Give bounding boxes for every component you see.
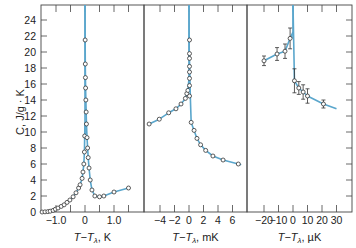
x-axis-label: T−Tλ, K: [74, 231, 112, 245]
data-point: [93, 194, 97, 198]
data-point: [88, 178, 92, 182]
x-tick-label: 30: [331, 214, 343, 226]
data-point: [84, 86, 88, 90]
data-point: [188, 56, 192, 60]
y-tick-label: 2: [30, 190, 36, 202]
data-point: [78, 183, 82, 187]
panel-3: −20−100102030T−Tλ, µK: [247, 5, 352, 245]
data-point: [80, 176, 84, 180]
data-point: [102, 194, 106, 198]
data-point: [74, 191, 78, 195]
data-point: [179, 102, 183, 106]
data-point: [262, 59, 266, 63]
y-tick-label: 6: [30, 158, 36, 170]
x-tick-label: −4: [154, 214, 166, 226]
data-point: [98, 195, 102, 199]
data-point: [90, 188, 94, 192]
data-point: [87, 166, 91, 170]
x-tick-label: 2: [201, 214, 207, 226]
fit-curve: [189, 5, 241, 165]
data-point: [84, 122, 88, 126]
y-tick-label: 10: [24, 126, 36, 138]
x-tick-label: −1.0: [46, 214, 67, 226]
data-point: [301, 90, 305, 94]
data-point: [83, 76, 87, 80]
data-point: [68, 198, 72, 202]
x-tick-label: 1.0: [107, 214, 122, 226]
fit-curve: [264, 32, 293, 61]
data-point: [204, 148, 208, 152]
fit-curve: [149, 78, 189, 124]
x-tick-label: 0: [82, 214, 88, 226]
y-tick-label: 14: [24, 94, 36, 106]
y-tick-label: 24: [24, 14, 36, 26]
y-tick-label: 16: [24, 78, 36, 90]
specific-heat-lambda-chart: C, J/g · K024681012141618202224−1.001.0T…: [0, 0, 356, 248]
data-point: [83, 38, 87, 42]
y-tick-label: 8: [30, 142, 36, 154]
data-point: [188, 94, 192, 98]
data-point: [82, 162, 86, 166]
data-point: [221, 158, 225, 162]
x-tick-label: 0: [290, 214, 296, 226]
data-point: [188, 76, 192, 80]
panel-frame: [144, 5, 247, 212]
data-point: [188, 52, 192, 56]
x-tick-label: −2: [169, 214, 181, 226]
data-point: [321, 102, 325, 106]
data-point: [84, 110, 88, 114]
x-axis-label: T−Tλ, µK: [278, 231, 322, 245]
data-point: [127, 186, 131, 190]
fit-curve: [85, 5, 129, 197]
x-tick-label: 6: [230, 214, 236, 226]
data-point: [186, 88, 190, 92]
y-tick-label: 12: [24, 110, 36, 122]
panel-1: −1.001.0T−Tλ, K: [40, 5, 144, 245]
data-point: [82, 150, 86, 154]
data-point: [188, 84, 192, 88]
data-point: [188, 64, 192, 68]
x-tick-label: 0: [186, 214, 192, 226]
data-point: [236, 162, 240, 166]
data-point: [275, 52, 279, 56]
y-tick-label: 20: [24, 46, 36, 58]
fit-curve: [42, 124, 85, 212]
data-point: [292, 79, 296, 83]
panel-frame: [41, 5, 144, 212]
data-point: [71, 195, 75, 199]
data-point: [86, 156, 90, 160]
data-point: [188, 38, 192, 42]
data-point: [167, 111, 171, 115]
data-point: [283, 49, 287, 53]
data-point: [81, 170, 85, 174]
data-point: [189, 120, 193, 124]
y-tick-label: 4: [30, 174, 36, 186]
x-axis-label: T−Tλ, mK: [172, 231, 219, 245]
data-point: [199, 143, 203, 147]
data-point: [188, 70, 192, 74]
data-point: [297, 86, 301, 90]
x-tick-label: −10: [270, 214, 288, 226]
data-point: [85, 136, 89, 140]
data-point: [84, 98, 88, 102]
data-point: [112, 190, 116, 194]
data-point: [211, 154, 215, 158]
data-point: [86, 146, 90, 150]
data-point: [83, 62, 87, 66]
y-tick-label: 18: [24, 62, 36, 74]
x-tick-label: 4: [215, 214, 221, 226]
data-point: [306, 94, 310, 98]
x-tick-label: 20: [316, 214, 328, 226]
data-point: [157, 117, 161, 121]
panel-2: −4−20246T−Tλ, mK: [144, 5, 247, 245]
data-point: [183, 96, 187, 100]
y-tick-label: 22: [24, 30, 36, 42]
fit-curve: [293, 5, 337, 109]
data-point: [147, 122, 151, 126]
y-tick-label: 0: [30, 206, 36, 218]
data-point: [192, 128, 196, 132]
x-tick-label: 10: [302, 214, 314, 226]
data-point: [288, 36, 292, 40]
data-point: [195, 136, 199, 140]
data-point: [174, 107, 178, 111]
